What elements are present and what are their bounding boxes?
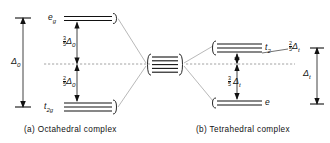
- tetrahedral-correlation-lines: [184, 46, 213, 101]
- figure-canvas: Δ0 eg t2g 35Δ0 25Δ0 t2 e 25Δt 35Δt Δt (a…: [0, 0, 330, 143]
- free-ion-d-orbital-set: [148, 54, 183, 75]
- caption-octahedral: (a) Octahedral complex: [24, 125, 117, 134]
- octahedral-upper-split-label: 35Δ0: [63, 36, 76, 48]
- octahedral-eg-level: [64, 14, 117, 24]
- tetrahedral-lower-split-label: 35Δt: [228, 76, 241, 88]
- tetrahedral-t2-level: [213, 41, 263, 55]
- tetrahedral-upper-split-label: 25Δt: [289, 41, 300, 53]
- tetrahedral-total-split-measure: [310, 47, 324, 105]
- octahedral-t2g-label: t2g: [44, 101, 53, 113]
- octahedral-eg-label: eg: [48, 12, 56, 24]
- tetrahedral-total-split-label: Δt: [303, 68, 311, 80]
- caption-tetrahedral: (b) Tetrahedral complex: [196, 125, 290, 134]
- tetrahedral-e-label: e: [265, 97, 270, 109]
- fraction-two-fifths: 25: [289, 41, 292, 53]
- octahedral-correlation-lines: [118, 19, 146, 108]
- octahedral-total-split-label: Δ0: [11, 56, 21, 68]
- tetrahedral-upper-split-arrow: [234, 53, 239, 65]
- tetrahedral-e-level: [213, 98, 263, 108]
- fraction-three-fifths: 35: [63, 36, 66, 48]
- octahedral-lower-split-label: 25Δ0: [63, 76, 76, 88]
- fraction-two-fifths: 25: [63, 76, 66, 88]
- octahedral-t2g-level: [64, 100, 117, 114]
- fraction-three-fifths: 35: [228, 76, 231, 88]
- tetrahedral-t2-label: t2: [265, 42, 271, 54]
